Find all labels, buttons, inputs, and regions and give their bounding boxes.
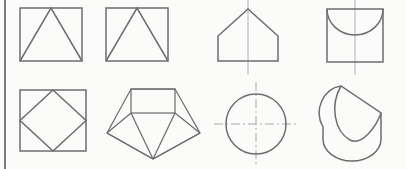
figure-square-with-inscribed-triangle-1 xyxy=(19,7,83,62)
inscribed-triangle xyxy=(20,8,82,61)
square-outline xyxy=(20,8,82,61)
oblique-cut-ellipse-edge xyxy=(335,86,381,141)
figure-obliquely-cut-cylinder-solid xyxy=(314,83,398,165)
figure-square-with-semicircle-arc xyxy=(318,0,392,75)
inscribed-triangle xyxy=(106,8,168,61)
top-rectangle xyxy=(131,89,175,113)
drawing-sheet xyxy=(0,0,406,169)
radiating-edges xyxy=(107,113,200,159)
square-outline xyxy=(20,90,86,151)
figure-pentagon-with-internal-edges xyxy=(103,85,203,165)
figure-circle-with-crossed-centerlines xyxy=(211,82,301,167)
solid-body-outline xyxy=(319,86,381,161)
square-outline xyxy=(106,8,168,61)
figure-pentagon-house-with-centerline xyxy=(211,0,285,75)
margin-rule-line xyxy=(4,0,6,169)
figure-square-with-inscribed-triangle-2 xyxy=(105,7,169,62)
figure-square-with-inscribed-diamond xyxy=(19,89,87,152)
pentagon-outline xyxy=(107,89,200,159)
inscribed-diamond xyxy=(20,90,86,151)
